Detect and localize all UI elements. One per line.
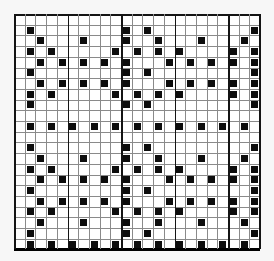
filled-cell [80,219,87,226]
horizontal-gridline [14,78,260,79]
vertical-gridline [164,14,165,249]
filled-cell [48,208,55,215]
filled-cell [27,166,34,173]
filled-cell [27,241,34,248]
filled-cell [251,91,258,98]
filled-cell [230,91,237,98]
filled-cell [155,91,162,98]
filled-cell [251,166,258,173]
filled-cell [80,198,87,205]
filled-cell [27,48,34,55]
filled-cell [155,48,162,55]
filled-cell [112,241,119,248]
filled-cell [112,166,119,173]
horizontal-gridline [14,239,260,240]
filled-cell [166,198,173,205]
vertical-gridline [78,14,79,249]
filled-cell [241,123,248,130]
filled-cell [27,91,34,98]
horizontal-gridline [14,217,260,218]
vertical-gridline [14,14,16,249]
filled-cell [27,101,34,108]
vertical-gridline [207,14,208,249]
filled-cell [144,144,151,151]
horizontal-gridline [14,142,260,143]
filled-cell [198,219,205,226]
filled-cell [37,155,44,162]
filled-cell [208,198,215,205]
filled-cell [59,198,66,205]
vertical-gridline [175,14,177,249]
filled-cell [48,91,55,98]
pattern-grid [14,14,260,249]
filled-cell [241,37,248,44]
filled-cell [187,59,194,66]
horizontal-gridline [14,248,260,251]
filled-cell [251,48,258,55]
vertical-gridline [35,14,36,249]
filled-cell [112,123,119,130]
vertical-gridline [100,14,101,249]
filled-cell [166,176,173,183]
filled-cell [101,59,108,66]
filled-cell [123,69,130,76]
filled-cell [69,123,76,130]
vertical-gridline [153,14,154,249]
filled-cell [27,123,34,130]
horizontal-gridline [14,25,260,26]
filled-cell [251,187,258,194]
filled-cell [101,176,108,183]
filled-cell [230,80,237,87]
vertical-gridline [46,14,47,249]
filled-cell [123,101,130,108]
filled-cell [27,27,34,34]
filled-cell [27,187,34,194]
filled-cell [80,155,87,162]
filled-cell [101,80,108,87]
vertical-gridline [196,14,197,249]
filled-cell [123,144,130,151]
filled-cell [134,241,141,248]
filled-cell [80,176,87,183]
filled-cell [134,48,141,55]
filled-cell [134,123,141,130]
filled-cell [176,91,183,98]
filled-cell [144,101,151,108]
filled-cell [37,37,44,44]
filled-cell [37,219,44,226]
filled-cell [123,155,130,162]
filled-cell [155,155,162,162]
filled-cell [251,27,258,34]
filled-cell [198,37,205,44]
horizontal-gridline [14,228,260,229]
filled-cell [37,80,44,87]
filled-cell [123,27,130,34]
vertical-gridline [25,14,26,249]
filled-cell [69,241,76,248]
filled-cell [59,176,66,183]
filled-cell [187,198,194,205]
vertical-gridline [132,14,133,249]
filled-cell [176,208,183,215]
vertical-gridline [217,14,218,249]
filled-cell [241,155,248,162]
filled-cell [27,208,34,215]
horizontal-gridline [14,121,260,122]
filled-cell [198,155,205,162]
filled-cell [166,80,173,87]
horizontal-gridline [14,89,260,90]
filled-cell [59,59,66,66]
filled-cell [80,80,87,87]
filled-cell [37,176,44,183]
filled-cell [48,123,55,130]
filled-cell [123,187,130,194]
horizontal-gridline [14,68,260,69]
filled-cell [37,59,44,66]
horizontal-gridline [14,153,260,154]
pattern-chart [0,0,274,261]
filled-cell [251,198,258,205]
filled-cell [176,241,183,248]
horizontal-gridline [14,14,260,16]
filled-cell [176,166,183,173]
filled-cell [166,59,173,66]
